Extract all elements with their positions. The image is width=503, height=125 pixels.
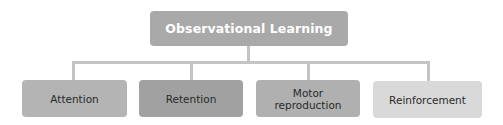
motor-reproduction-connector <box>307 61 310 80</box>
attention-connector <box>72 61 75 80</box>
node-motor-reproduction-label-line2: reproduction <box>275 99 342 111</box>
retention-connector <box>190 61 193 80</box>
reinforcement-connector <box>427 61 430 81</box>
node-retention-label: Retention <box>166 93 217 105</box>
node-retention: Retention <box>139 80 243 117</box>
node-attention: Attention <box>22 80 127 117</box>
node-reinforcement-label: Reinforcement <box>389 94 466 106</box>
node-motor-reproduction: Motor reproduction <box>256 80 360 117</box>
root-node-label: Observational Learning <box>165 21 332 36</box>
node-reinforcement: Reinforcement <box>373 81 482 118</box>
node-attention-label: Attention <box>50 93 98 105</box>
horizontal-connector <box>72 61 430 64</box>
node-motor-reproduction-label-line1: Motor <box>293 87 323 99</box>
root-node-observational-learning: Observational Learning <box>150 11 348 46</box>
